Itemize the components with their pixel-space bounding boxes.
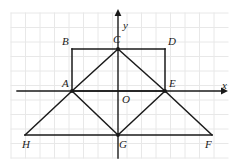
point-label-h: H (22, 139, 30, 150)
segment-E-F-outer-right (165, 91, 212, 135)
origin-label: O (122, 94, 130, 105)
point-label-e: E (169, 78, 176, 89)
vertex-dot-a (70, 89, 74, 93)
segment-A-G-diagonal (72, 91, 118, 135)
point-label-g: G (119, 139, 127, 150)
x-axis-label: x (222, 80, 227, 91)
point-label-d: D (168, 36, 176, 47)
vertex-dot-c (116, 47, 120, 51)
point-label-b: B (62, 36, 69, 47)
point-label-c: C (113, 34, 120, 45)
y-axis-label: y (123, 20, 128, 31)
point-label-a: A (62, 78, 69, 89)
geometry-figure: ABCDEFGHOxy (0, 0, 239, 165)
vertex-dot-e (163, 89, 167, 93)
segment-H-A-outer-left (25, 91, 72, 135)
point-label-f: F (205, 139, 212, 150)
vertex-dot-g (116, 133, 120, 137)
segment-A-C-diagonal (72, 49, 118, 91)
